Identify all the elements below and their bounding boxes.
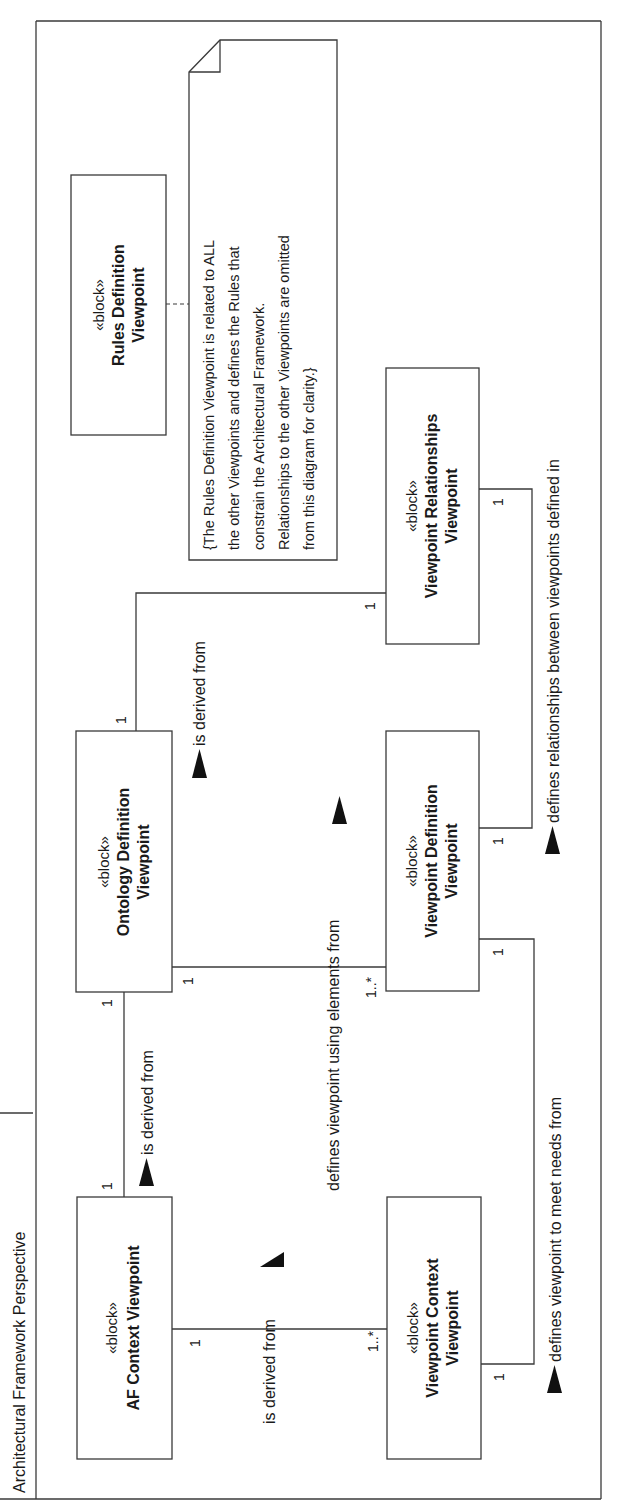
multiplicity: 1..* <box>363 976 379 998</box>
multiplicity: 1..* <box>365 1330 381 1352</box>
multiplicity: 1 <box>490 948 506 956</box>
multiplicity: 1 <box>187 1339 203 1347</box>
block-name: Viewpoint <box>444 1290 461 1366</box>
block-name: Ontology Definition <box>115 788 132 936</box>
block-viewpoint-context-viewpoint[interactable]: «block» Viewpoint Context Viewpoint <box>387 1197 481 1459</box>
direction-arrow-icon <box>545 826 560 854</box>
block-stereotype: «block» <box>403 835 420 887</box>
association-vpctx-to-af[interactable]: 1 1..* is derived from <box>172 1252 387 1424</box>
multiplicity: 1 <box>490 837 506 845</box>
association-label: is derived from <box>139 1050 156 1155</box>
note-line: from this diagram for clarity.} <box>301 367 317 550</box>
frame-title: Architectural Framework Perspective <box>11 1231 28 1493</box>
direction-arrow-icon <box>547 1365 562 1393</box>
note-line: Relationships to the other Viewpoints ar… <box>276 235 292 550</box>
association-label: is derived from <box>191 641 208 746</box>
note-line: {The Rules Definition Viewpoint is relat… <box>201 240 217 550</box>
block-name: Viewpoint Context <box>424 1258 441 1398</box>
association-label: is derived from <box>261 1319 278 1424</box>
multiplicity: 1 <box>180 977 196 985</box>
block-viewpoint-definition-viewpoint[interactable]: «block» Viewpoint Definition Viewpoint <box>386 731 479 991</box>
block-name: Viewpoint <box>443 468 460 544</box>
multiplicity: 1 <box>491 1373 507 1381</box>
association-vprel-to-vpdef[interactable]: 1 1 defines relationships between viewpo… <box>479 459 562 854</box>
association-label: defines viewpoint to meet needs from <box>547 1097 564 1362</box>
direction-arrow-icon <box>139 1158 154 1186</box>
block-name: Viewpoint <box>130 267 147 343</box>
block-name: AF Context Viewpoint <box>125 1245 142 1411</box>
block-ontology-definition-viewpoint[interactable]: «block» Ontology Definition Viewpoint <box>76 731 172 992</box>
multiplicity: 1 <box>490 498 506 506</box>
comment-note[interactable]: {The Rules Definition Viewpoint is relat… <box>189 40 337 560</box>
block-stereotype: «block» <box>90 279 107 331</box>
block-name: Viewpoint <box>135 824 152 900</box>
block-name: Viewpoint <box>443 823 460 899</box>
direction-arrow-icon <box>192 749 207 778</box>
multiplicity: 1 <box>362 602 378 610</box>
direction-arrow-icon <box>332 796 347 824</box>
block-af-context-viewpoint[interactable]: «block» AF Context Viewpoint <box>77 1197 172 1459</box>
note-line: the other Viewpoints and defines the Rul… <box>226 246 242 550</box>
association-label: defines relationships between viewpoints… <box>545 459 562 823</box>
association-af-to-ontology[interactable]: 1 1 is derived from <box>99 992 156 1197</box>
multiplicity: 1 <box>99 1182 115 1190</box>
direction-arrow-icon <box>260 1252 284 1267</box>
association-label: defines viewpoint using elements from <box>325 920 342 1191</box>
multiplicity: 1 <box>99 999 115 1007</box>
block-stereotype: «block» <box>404 1302 421 1354</box>
association-vpdef-to-ontology[interactable]: 1 1..* defines viewpoint using elements … <box>172 796 386 1191</box>
block-name: Viewpoint Relationships <box>423 414 440 599</box>
block-viewpoint-relationships-viewpoint[interactable]: «block» Viewpoint Relationships Viewpoin… <box>386 368 479 644</box>
block-stereotype: «block» <box>103 1302 120 1354</box>
block-stereotype: «block» <box>95 836 112 888</box>
association-vpdef-to-vpctx[interactable]: 1 1 defines viewpoint to meet needs from <box>479 939 564 1393</box>
block-stereotype: «block» <box>403 480 420 532</box>
sysml-block-diagram: Architectural Framework Perspective «blo… <box>0 0 626 1510</box>
block-name: Rules Definition <box>110 244 127 366</box>
multiplicity: 1 <box>113 716 129 724</box>
note-line: constrain the Architectural Framework. <box>251 303 267 550</box>
block-name: Viewpoint Definition <box>423 784 440 937</box>
block-rules-definition-viewpoint[interactable]: «block» Rules Definition Viewpoint <box>71 175 166 435</box>
